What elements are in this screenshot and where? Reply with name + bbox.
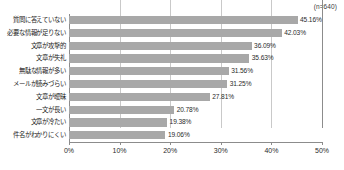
bar-row: 19.38% xyxy=(69,116,322,129)
bar-value-label: 31.25% xyxy=(230,79,252,89)
bar-row: 19.06% xyxy=(69,129,322,142)
tick-mark-0% xyxy=(69,142,70,145)
bar xyxy=(69,54,249,62)
plot-area: 45.16%42.03%36.09%35.63%31.56%31.25%27.8… xyxy=(69,14,322,142)
bar-row: 35.63% xyxy=(69,52,322,65)
category-label: 無駄な情報が多い xyxy=(0,65,66,78)
bar xyxy=(69,118,167,126)
category-label: 文章が攻撃的 xyxy=(0,40,66,53)
sample-size-annotation: (n=640) xyxy=(314,3,337,10)
tick-mark-30% xyxy=(221,142,222,145)
category-label: メールが読みづらい xyxy=(0,78,66,91)
bar xyxy=(69,131,165,139)
x-tick-label: 50% xyxy=(315,147,329,154)
x-tick-label: 30% xyxy=(214,147,228,154)
bar xyxy=(69,80,227,88)
bar-row: 36.09% xyxy=(69,40,322,53)
tick-mark-40% xyxy=(271,142,272,145)
x-axis-line xyxy=(69,142,323,143)
bar-value-label: 19.38% xyxy=(170,117,192,127)
bar-row: 27.81% xyxy=(69,91,322,104)
bar-row: 31.56% xyxy=(69,65,322,78)
category-label: 件名がわかりにくい xyxy=(0,129,66,142)
bar-value-label: 20.78% xyxy=(177,105,199,115)
bar-value-label: 36.09% xyxy=(254,41,276,51)
tick-mark-50% xyxy=(322,142,323,145)
x-tick-label: 40% xyxy=(264,147,278,154)
bar-row: 31.25% xyxy=(69,78,322,91)
category-label: 必要な情報が足りない xyxy=(0,27,66,40)
x-tick-label: 20% xyxy=(163,147,177,154)
bar-value-label: 31.56% xyxy=(231,66,253,76)
bar-row: 20.78% xyxy=(69,104,322,117)
bar xyxy=(69,16,298,24)
category-label: 文章が失礼 xyxy=(0,52,66,65)
bar xyxy=(69,93,210,101)
x-tick-label: 10% xyxy=(113,147,127,154)
bar xyxy=(69,42,252,50)
bar-value-label: 35.63% xyxy=(252,53,274,63)
bar-value-label: 19.06% xyxy=(168,130,190,140)
category-label: 一文が長い xyxy=(0,104,66,117)
category-label: 質問に答えていない xyxy=(0,14,66,27)
bar-chart: (n=640) 45.16%42.03%36.09%35.63%31.56%31… xyxy=(0,0,344,170)
category-label: 文章が曖昧 xyxy=(0,91,66,104)
tick-mark-20% xyxy=(170,142,171,145)
category-label: 文章が冷たい xyxy=(0,116,66,129)
bar-row: 42.03% xyxy=(69,27,322,40)
bar xyxy=(69,29,282,37)
x-tick-label: 0% xyxy=(64,147,74,154)
bar-row: 45.16% xyxy=(69,14,322,27)
tick-mark-10% xyxy=(120,142,121,145)
bar-value-label: 27.81% xyxy=(212,92,234,102)
bar-value-label: 42.03% xyxy=(284,28,306,38)
gridline-50% xyxy=(322,0,323,128)
bar-value-label: 45.16% xyxy=(300,15,322,25)
bar xyxy=(69,106,174,114)
bar xyxy=(69,67,229,75)
